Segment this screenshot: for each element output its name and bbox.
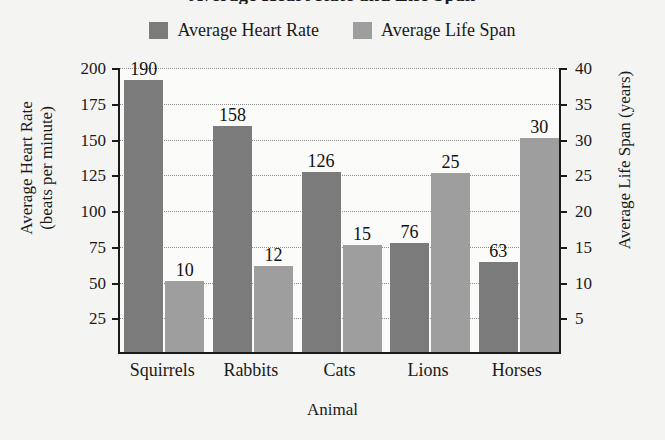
- bar-value-label: 190: [130, 60, 157, 78]
- right-axis-tick-label: 5: [575, 310, 621, 327]
- left-axis-tick-label: 175: [52, 96, 106, 113]
- right-axis-tick-label: 30: [575, 132, 621, 149]
- bar-value-label: 126: [308, 152, 335, 170]
- x-axis-title: Animal: [0, 400, 665, 420]
- left-axis-tick: [112, 140, 120, 142]
- right-axis-tick-label: 35: [575, 96, 621, 113]
- left-axis-tick-label: 125: [52, 167, 106, 184]
- bar-heart-rate: 126: [302, 172, 341, 352]
- left-axis-tick-label: 25: [52, 310, 106, 327]
- bar-value-label: 158: [219, 106, 246, 124]
- x-axis-category-label: Horses: [472, 360, 561, 381]
- right-axis-tick: [559, 283, 567, 285]
- right-axis-tick: [559, 211, 567, 213]
- right-axis-tick-label: 20: [575, 203, 621, 220]
- bar-value-label: 25: [442, 153, 460, 171]
- bar-value-label: 76: [401, 223, 419, 241]
- left-axis-tick-label: 100: [52, 203, 106, 220]
- left-axis-tick-label: 200: [52, 60, 106, 77]
- left-axis-tick: [112, 175, 120, 177]
- x-axis-category-label: Lions: [384, 360, 473, 381]
- right-axis-tick: [559, 140, 567, 142]
- x-axis-category-label: Rabbits: [207, 360, 296, 381]
- right-axis-tick-label: 15: [575, 239, 621, 256]
- bar-value-label: 12: [264, 246, 282, 264]
- bars-layer: 19010158121261576256330: [120, 68, 559, 352]
- bar-value-label: 10: [176, 261, 194, 279]
- right-axis-tick: [559, 175, 567, 177]
- bar-life-span: 30: [520, 138, 559, 353]
- x-axis-category-label: Cats: [295, 360, 384, 381]
- right-axis-tick-label: 40: [575, 60, 621, 77]
- left-axis-tick-label: 150: [52, 132, 106, 149]
- bar-heart-rate: 190: [124, 80, 163, 352]
- bar-heart-rate: 63: [479, 262, 518, 352]
- right-axis-tick: [559, 68, 567, 70]
- bar-value-label: 63: [489, 242, 507, 260]
- right-axis-tick-label: 10: [575, 275, 621, 292]
- chart-plot-region: Average Heart Rate (beats per minute) Av…: [0, 0, 665, 440]
- bar-heart-rate: 76: [390, 243, 429, 352]
- left-axis-tick-label: 75: [52, 239, 106, 256]
- bar-life-span: 25: [431, 173, 470, 352]
- left-axis-tick: [112, 104, 120, 106]
- bar-value-label: 15: [353, 225, 371, 243]
- left-axis-tick: [112, 211, 120, 213]
- x-axis-category-label: Squirrels: [118, 360, 207, 381]
- left-axis-title: Average Heart Rate (beats per minute): [17, 43, 57, 293]
- left-axis-tick: [112, 247, 120, 249]
- left-axis-tick: [112, 68, 120, 70]
- left-axis-tick: [112, 318, 120, 320]
- left-axis-tick: [112, 283, 120, 285]
- bar-life-span: 12: [254, 266, 293, 352]
- plot-area: 19010158121261576256330: [118, 68, 561, 354]
- bar-value-label: 30: [530, 118, 548, 136]
- right-axis-tick: [559, 104, 567, 106]
- left-axis-tick-label: 50: [52, 275, 106, 292]
- bar-heart-rate: 158: [213, 126, 252, 352]
- right-axis-tick: [559, 318, 567, 320]
- right-axis-tick: [559, 247, 567, 249]
- left-axis-title-line1: Average Heart Rate: [17, 43, 37, 293]
- bar-life-span: 10: [165, 281, 204, 353]
- bar-life-span: 15: [343, 245, 382, 352]
- right-axis-tick-label: 25: [575, 167, 621, 184]
